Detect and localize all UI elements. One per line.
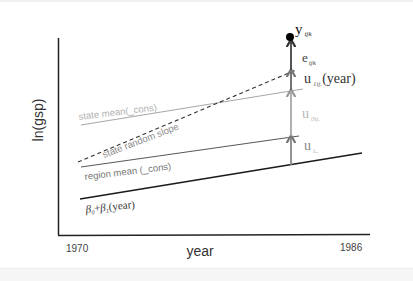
- svg-text:β0+β1(year): β0+β1(year): [84, 198, 136, 216]
- observation-dot: [286, 33, 294, 41]
- e-ijk-label: eijk: [302, 50, 317, 67]
- bottom-border: [0, 268, 413, 281]
- x-tick-1970: 1970: [66, 243, 89, 254]
- x-axis-label: year: [186, 243, 214, 259]
- y-axis-label: ln(gsp): [30, 99, 46, 142]
- y-ijk-label: yijk: [295, 21, 312, 38]
- region-mean-label: region mean (_cons): [84, 160, 172, 182]
- u-region-label: ui..: [304, 138, 319, 155]
- u0-state-label: u0ij.: [302, 106, 320, 123]
- x-tick-1986: 1986: [340, 242, 363, 253]
- x-axis: [58, 235, 370, 236]
- state-random-slope-label: state random slope: [101, 121, 180, 160]
- u1-year-label: u1ij.(year): [304, 71, 356, 88]
- fixed-effect-label: β0+β1(year): [84, 198, 136, 216]
